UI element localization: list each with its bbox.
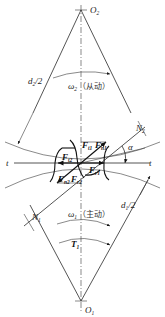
omega1-arrow [57,219,110,226]
label-omega1: ω1 [68,209,77,220]
omega2-arrow [53,72,110,78]
label-ft2: Ft2 [61,152,73,163]
label-fr1: Fr1 [88,165,100,176]
label-t-right: t [149,158,152,168]
d2-dimension-arrow [18,113,33,144]
label-fn1: Fn1 [94,140,107,151]
label-d2: d2/2 [28,76,43,87]
label-omega1-note: （主动） [78,209,110,219]
label-alpha: α [128,142,133,152]
label-torque: T1 [71,239,80,250]
label-ft1: Ft1 [81,140,93,151]
label-omega2-note: （从动） [78,81,110,91]
label-d1: d1/2 [121,200,136,211]
diagram-canvas: O2 O1 d2/2 d1/2 ω2 （从动） ω1 （主动） T1 t t N… [0,0,165,317]
label-n2: N2 [135,123,145,134]
driven-radius-right [81,10,131,113]
label-fn2: Fn2 [57,174,70,185]
gear-mesh-diagram: O2 O1 d2/2 d1/2 ω2 （从动） ω1 （主动） T1 t t N… [0,0,165,317]
label-fr2: Fr2 [70,174,82,185]
label-t-left: t [6,158,9,168]
torque-arrow [59,238,110,245]
label-o2: O2 [90,5,100,16]
driven-radius-left [33,10,81,113]
label-o1: O1 [85,305,95,316]
d1-dimension-arrow [140,176,150,195]
label-omega2: ω2 [68,81,77,92]
driver-radius-right [81,180,148,301]
